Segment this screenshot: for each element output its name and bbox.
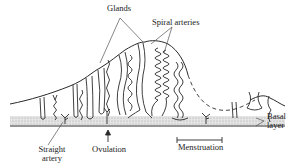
spiral-arteries-label: Spiral arteries <box>152 18 199 27</box>
menstruation-label: Menstruation <box>178 143 223 152</box>
straight-artery-label-line2: artery <box>36 154 68 163</box>
ovulation-label: Ovulation <box>92 145 126 154</box>
basal-layer-label: Basal layer <box>267 112 286 130</box>
shedding-dashed-curve <box>188 75 255 110</box>
basal-layer-band <box>10 116 285 125</box>
ovulation-arrow <box>106 130 111 142</box>
diagram-drawing <box>0 0 290 165</box>
basal-layer-label-line2: layer <box>267 121 286 130</box>
spiral-arteries-group <box>53 48 169 120</box>
endometrium-diagram: Glands Spiral arteries Straight artery O… <box>0 0 290 165</box>
straight-artery-label: Straight artery <box>36 145 68 163</box>
glands-label: Glands <box>107 4 131 13</box>
